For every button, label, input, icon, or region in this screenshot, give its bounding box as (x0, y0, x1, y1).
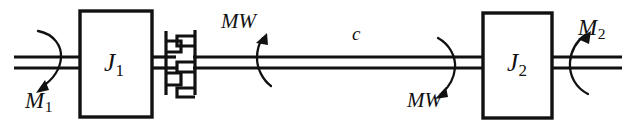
label-torque-m1-base: M (25, 88, 44, 113)
torsional-system-diagram: J1 J2 M1 M2 MW MW c (0, 0, 636, 127)
label-inertia-j1: J1 (104, 50, 124, 79)
torque-arrow-mw-upper-curve (257, 38, 271, 86)
label-inertia-j2-base: J (507, 49, 518, 76)
torque-arrow-mw-upper (256, 33, 271, 86)
torque-arrow-mw-lower-curve (438, 38, 455, 93)
label-inertia-j2: J2 (507, 50, 527, 79)
label-torque-m2-subscript: 2 (597, 25, 605, 42)
label-inertia-j1-subscript: 1 (115, 61, 124, 80)
label-torque-m2: M2 (578, 16, 605, 42)
diagram-canvas (0, 0, 636, 127)
torque-arrow-m2-curve (570, 35, 588, 94)
label-torque-m2-base: M (578, 15, 597, 40)
label-shaft-stiffness-c: c (352, 24, 360, 43)
label-shaft-torque-upper: MW (221, 11, 256, 32)
torque-arrow-m1-curve (38, 31, 61, 87)
label-torque-m1-subscript: 1 (44, 98, 52, 115)
clutch-right-tooth-lower (177, 88, 195, 97)
torque-arrow-m1 (36, 31, 61, 93)
label-inertia-j1-base: J (104, 49, 115, 76)
torque-arrow-mw-upper-head (256, 33, 268, 45)
label-shaft-torque-lower: MW (407, 90, 442, 111)
clutch-left-tooth-lower (166, 73, 181, 85)
label-torque-m1: M1 (25, 89, 52, 115)
claw-clutch-coupling (166, 30, 195, 97)
label-inertia-j2-subscript: 2 (518, 61, 527, 80)
clutch-right-tooth-middle (177, 62, 195, 72)
